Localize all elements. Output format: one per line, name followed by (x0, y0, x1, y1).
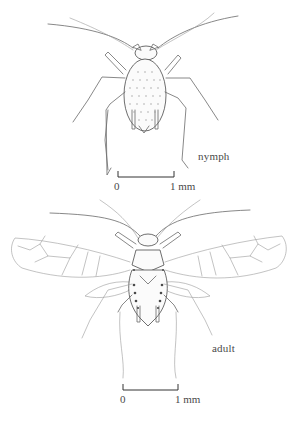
adult-abdomen (129, 270, 168, 326)
aphid-illustration-figure: nymph 0 1 mm (0, 0, 295, 422)
adult-left-antenna (50, 213, 140, 236)
adult-scale-start: 0 (120, 393, 126, 405)
adult-right-antenna (156, 210, 250, 236)
adult-left-forewing (11, 238, 130, 277)
adult-head (138, 234, 158, 246)
adult-left-hindwing (85, 282, 130, 298)
adult-scale-end: 1 mm (175, 393, 200, 405)
adult-label: adult (212, 342, 235, 354)
adult-thorax (132, 250, 164, 272)
adult-drawing (0, 0, 295, 422)
adult-right-forewing (165, 236, 286, 278)
adult-scale-bar (123, 384, 178, 390)
